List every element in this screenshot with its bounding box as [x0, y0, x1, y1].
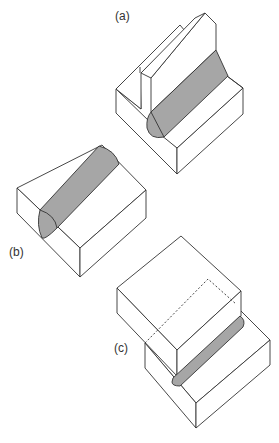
- panel-label-b: (b): [9, 245, 24, 259]
- panel-c-drawing: [117, 236, 270, 428]
- panel-label-c: (c): [114, 341, 128, 355]
- panel-a-drawing: [116, 13, 243, 174]
- weld-diagram: [0, 0, 279, 443]
- panel-b-drawing: [17, 145, 146, 277]
- panel-label-a: (a): [115, 9, 130, 23]
